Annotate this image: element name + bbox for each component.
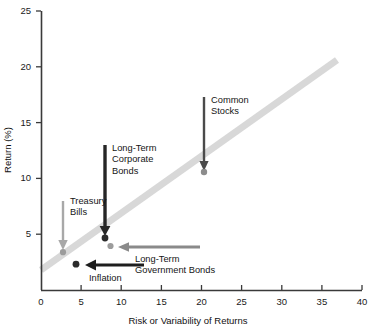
x-tick-label-30: 30 [277,297,288,307]
x-tick-label-40: 40 [357,297,368,307]
y-tick-label-25: 25 [11,6,31,16]
long-term-government-bonds-arrow [118,242,200,251]
x-tick-label-25: 25 [236,297,247,307]
annotation-treasury-bills: Treasury Bills [70,196,106,219]
annotation-inflation: Inflation [89,273,122,284]
y-tick-label-10: 10 [11,174,31,184]
annotation-long-term-corporate-bonds: Long-Term Corporate Bonds [112,143,156,177]
annotation-long-term-corporate-bonds-line-2: Corporate [112,154,156,165]
annotation-treasury-bills-line-2: Bills [70,207,106,218]
risk-return-scatter-chart: 25 20 15 10 5 0 5 10 15 20 25 30 35 40 R… [0,0,376,331]
plot-area [0,0,376,331]
y-tick-label-15: 15 [11,118,31,128]
y-tick-label-20: 20 [11,62,31,72]
annotation-long-term-corporate-bonds-line-3: Bonds [112,166,156,177]
x-tick-label-20: 20 [196,297,207,307]
treasury-bills-arrow [58,201,67,250]
data-point-inflation [73,261,80,268]
y-tick-label-5: 5 [11,229,31,239]
annotation-long-term-government-bonds-line-1: Long-Term [135,254,215,265]
annotation-common-stocks: Common Stocks [211,95,249,118]
annotation-common-stocks-line-1: Common [211,95,249,106]
annotation-inflation-line-1: Inflation [89,273,122,284]
y-axis-ticks [36,11,41,234]
x-tick-label-35: 35 [317,297,328,307]
x-tick-label-0: 0 [38,297,43,307]
x-tick-label-10: 10 [116,297,127,307]
y-axis-title: Return (%) [3,127,13,173]
x-tick-label-5: 5 [78,297,83,307]
annotation-long-term-government-bonds: Long-Term Government Bonds [135,254,215,277]
x-axis-title: Risk or Variability of Returns [128,316,247,326]
data-point-long-term-corporate-bonds [102,235,109,242]
trendline [41,60,337,270]
data-point-treasury-bills [60,249,66,255]
annotation-treasury-bills-line-1: Treasury [70,196,106,207]
data-point-long-term-government-bonds [107,243,113,249]
x-tick-label-15: 15 [156,297,167,307]
annotation-long-term-government-bonds-line-2: Government Bonds [135,265,215,276]
annotation-long-term-corporate-bonds-line-1: Long-Term [112,143,156,154]
annotation-common-stocks-line-2: Stocks [211,106,249,117]
data-point-common-stocks [201,169,207,175]
x-axis-ticks [81,285,362,290]
